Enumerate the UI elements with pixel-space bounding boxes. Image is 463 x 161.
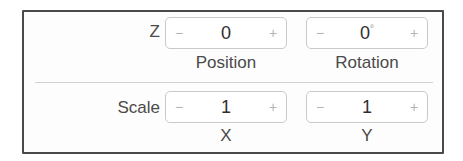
position-z-decrement-button[interactable]: − <box>166 18 192 48</box>
row-label-z: Z <box>40 22 160 42</box>
scale-y-stepper[interactable]: − 1 + <box>306 91 428 123</box>
row-divider <box>35 82 433 83</box>
scale-y-value[interactable]: 1 <box>333 97 401 118</box>
scale-y-caption: Y <box>305 126 429 146</box>
scale-x-caption: X <box>164 126 288 146</box>
scale-x-increment-button[interactable]: + <box>260 92 286 122</box>
rotation-increment-button[interactable]: + <box>401 18 427 48</box>
rotation-caption: Rotation <box>305 53 429 73</box>
row-label-scale: Scale <box>40 98 160 118</box>
position-z-value[interactable]: 0 <box>192 23 260 44</box>
rotation-stepper[interactable]: − 0° + <box>306 17 428 49</box>
scale-x-value[interactable]: 1 <box>192 97 260 118</box>
scale-x-decrement-button[interactable]: − <box>166 92 192 122</box>
scale-y-decrement-button[interactable]: − <box>307 92 333 122</box>
position-z-increment-button[interactable]: + <box>260 18 286 48</box>
position-caption: Position <box>164 53 288 73</box>
scale-x-value-text: 1 <box>221 97 231 117</box>
degree-unit: ° <box>370 23 374 34</box>
scale-y-value-text: 1 <box>362 97 372 117</box>
position-z-value-text: 0 <box>221 23 231 43</box>
scale-y-increment-button[interactable]: + <box>401 92 427 122</box>
rotation-decrement-button[interactable]: − <box>307 18 333 48</box>
position-z-stepper[interactable]: − 0 + <box>165 17 287 49</box>
rotation-value-text: 0 <box>360 23 370 43</box>
transform-panel: Z − 0 + Position − 0° + Rotation Scale −… <box>22 10 444 154</box>
rotation-value[interactable]: 0° <box>333 23 401 44</box>
scale-x-stepper[interactable]: − 1 + <box>165 91 287 123</box>
